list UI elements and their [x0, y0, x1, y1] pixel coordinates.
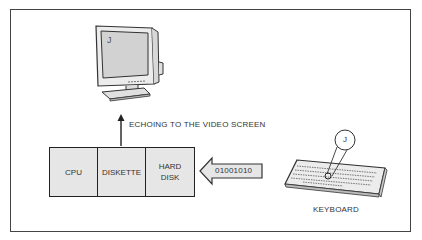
diskette-label: DISKETTE [102, 167, 141, 178]
echo-label: ECHOING TO THE VIDEO SCREEN [129, 120, 266, 129]
binary-code-label: 01001010 [215, 166, 252, 175]
system-blocks: CPU DISKETTE HARD DISK [49, 147, 195, 197]
monitor-icon [86, 22, 164, 102]
hard-disk-block: HARD DISK [146, 148, 194, 196]
hard-label: HARD [159, 161, 182, 172]
monitor-screen-char: J [107, 35, 112, 45]
echo-arrow-icon [117, 114, 125, 146]
cpu-label: CPU [65, 167, 82, 178]
keyboard-label: KEYBOARD [313, 205, 359, 214]
key-callout-char: J [343, 135, 347, 144]
cpu-block: CPU [50, 148, 98, 196]
diskette-block: DISKETTE [98, 148, 146, 196]
disk-label: DISK [161, 172, 180, 183]
key-callout-icon [320, 128, 360, 180]
